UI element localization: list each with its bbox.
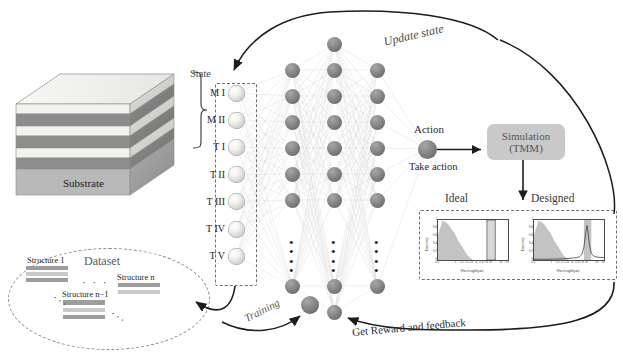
training-arrow-path: [222, 316, 300, 331]
diagram-canvas: Substrate State M IM IIT IT IIT IIIT IVT…: [0, 0, 623, 356]
update-state-arrow-path: [234, 11, 498, 70]
reward-node[interactable]: [301, 296, 319, 314]
state-to-dataset-arrow: [196, 286, 235, 310]
